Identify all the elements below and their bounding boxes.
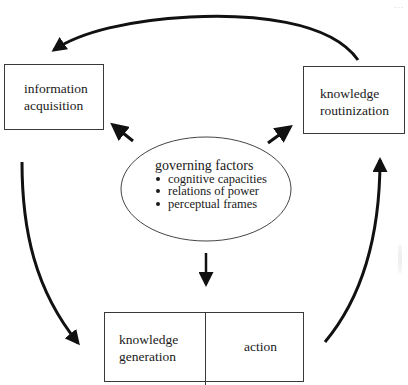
knowledge-generation-line1: knowledge <box>119 331 178 348</box>
bullet-icon <box>156 177 160 181</box>
knowledge-generation-line2: generation <box>119 348 178 365</box>
knowledge-routinization-line2: routinization <box>320 102 389 119</box>
arrow-routinization-to-acquisition <box>54 16 358 60</box>
bullet-icon <box>156 189 160 193</box>
information-acquisition-line1: information <box>24 80 88 97</box>
knowledge-routinization-label: knowledge routinization <box>320 85 389 119</box>
action-label: action <box>244 338 277 355</box>
knowledge-routinization-line1: knowledge <box>320 85 389 102</box>
generation-action-divider <box>205 312 206 385</box>
governing-factors-list: cognitive capacities relations of power … <box>155 173 267 210</box>
information-acquisition-label: information acquisition <box>24 80 88 114</box>
bullet-icon <box>156 202 160 206</box>
arrow-factors-to-routinization <box>268 127 290 143</box>
governing-factors-title: governing factors <box>155 158 267 173</box>
arrow-action-to-routinization <box>325 160 380 342</box>
information-acquisition-line2: acquisition <box>24 97 88 114</box>
arrow-acquisition-to-generation <box>22 162 78 343</box>
arrow-factors-to-acquisition <box>113 125 133 141</box>
governing-factors-content: governing factors cognitive capacities r… <box>155 158 267 210</box>
governing-factor-item: perceptual frames <box>155 198 267 210</box>
knowledge-generation-label: knowledge generation <box>119 331 178 365</box>
